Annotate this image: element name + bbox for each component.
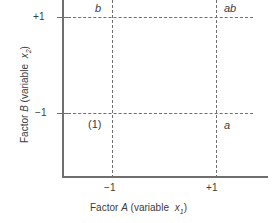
factorial-design-figure: +1 −1 −1 +1 b ab (1) a Factor A (variabl… <box>0 0 277 223</box>
x-axis-title-prefix: Factor <box>90 202 121 213</box>
gridline-horizontal-minus1 <box>63 113 253 114</box>
x-axis-line <box>62 176 268 178</box>
x-axis-ticklabel-plus1: +1 <box>206 182 218 193</box>
y-axis-title-variable-subscript: 2 <box>25 49 32 53</box>
y-axis-title: Factor B (variable x2) <box>19 5 32 185</box>
gridline-horizontal-plus1 <box>63 17 253 18</box>
gridline-vertical-plus1 <box>216 0 217 178</box>
y-axis-title-middle: (variable <box>19 61 30 105</box>
x-axis-title-suffix: ) <box>184 202 187 213</box>
y-axis-ticklabel-minus1: −1 <box>35 107 47 118</box>
x-axis-title: Factor A (variable x1) <box>0 202 277 215</box>
y-axis-title-prefix: Factor <box>19 112 30 143</box>
y-axis-ticklabel-plus1: +1 <box>33 11 45 22</box>
y-axis-line <box>62 0 64 178</box>
x-axis-ticklabel-minus1: −1 <box>104 182 116 193</box>
y-axis-title-suffix: ) <box>19 46 30 49</box>
treatment-label-one: (1) <box>88 118 101 130</box>
treatment-label-b: b <box>95 2 101 14</box>
x-axis-title-factor: A <box>121 202 128 213</box>
treatment-label-ab: ab <box>224 2 236 14</box>
x-axis-title-middle: (variable <box>128 202 172 213</box>
y-axis-title-factor: B <box>19 105 30 112</box>
gridline-vertical-minus1 <box>112 0 113 178</box>
treatment-label-a: a <box>224 119 230 131</box>
y-axis-title-variable: x <box>19 53 30 58</box>
